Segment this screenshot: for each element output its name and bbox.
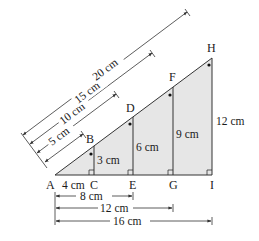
height-BC-label: 3 cm — [97, 154, 120, 166]
base-dim-12cm: 12 cm — [100, 202, 128, 214]
label-F: F — [169, 70, 176, 84]
label-G: G — [169, 178, 178, 192]
label-D: D — [126, 101, 135, 115]
label-B: B — [86, 132, 94, 146]
base-dim-16cm: 16 cm — [113, 215, 141, 227]
height-DE-label: 6 cm — [136, 141, 159, 153]
label-E: E — [129, 178, 136, 192]
label-H: H — [207, 41, 216, 55]
label-A: A — [46, 178, 55, 192]
label-I: I — [210, 178, 214, 192]
base-dim-8cm: 8 cm — [80, 190, 103, 202]
height-FG-label: 9 cm — [176, 128, 199, 140]
similar-triangles-diagram: A C E G I B D F H 3 cm 6 cm 9 cm 12 cm 4… — [0, 0, 259, 241]
height-HI-label: 12 cm — [216, 115, 244, 127]
